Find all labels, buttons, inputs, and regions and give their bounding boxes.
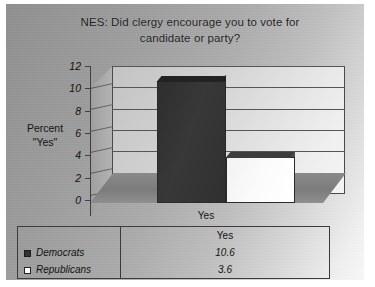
y-tick-mark-0 [85,200,90,201]
table-row[interactable]: Democrats 10.6 [18,244,329,261]
legend-label-republicans: Republicans [36,264,91,275]
legend-item-democrats[interactable]: Democrats [18,244,121,261]
table-value-democrats: 10.6 [121,244,330,261]
y-tick-mark-10 [85,88,90,89]
chart-title: NES: Did clergy encourage you to vote fo… [40,14,340,46]
bar-republicans[interactable] [226,157,295,203]
table-value-republicans: 3.6 [121,261,330,278]
y-tick-label-6: 6 [55,128,81,138]
y-tick-mark-6 [85,133,90,134]
table-header-category: Yes [121,227,330,244]
table-header-row: Yes [18,227,329,244]
y-tick-mark-2 [85,178,90,179]
plot-area [90,66,346,214]
gridline-10 [112,87,345,88]
y-tick-label-2: 2 [55,173,81,183]
table-row[interactable]: Republicans 3.6 [18,261,329,278]
gridline-12 [112,66,345,67]
y-tick-label-8: 8 [55,106,81,116]
chart-title-line-2: candidate or party? [40,30,340,46]
legend-label-democrats: Democrats [36,247,84,258]
y-tick-label-10: 10 [55,83,81,93]
y-tick-label-4: 4 [55,150,81,160]
gridline-6 [112,130,345,131]
y-tick-mark-12 [85,66,90,67]
legend-swatch-republicans-icon [24,267,31,274]
legend-swatch-democrats-icon [24,250,31,257]
bar-republicans-top [225,152,294,158]
y-axis-line [90,66,91,216]
chart-title-line-1: NES: Did clergy encourage you to vote fo… [40,14,340,30]
y-tick-label-12: 12 [55,61,81,71]
legend-item-republicans[interactable]: Republicans [18,261,121,278]
bar-democrats-top [156,76,225,82]
y-tick-mark-8 [85,111,90,112]
y-tick-label-0: 0 [55,195,81,205]
bar-democrats-face [157,81,226,203]
slide-canvas: NES: Did clergy encourage you to vote fo… [0,0,375,287]
gridline-8 [112,109,345,110]
bar-democrats[interactable] [157,81,226,203]
x-axis-category-label: Yes [156,210,256,221]
data-table: Yes Democrats 10.6 Republicans 3.6 [17,226,330,279]
y-tick-mark-4 [85,155,90,156]
gridline-4 [112,151,345,152]
bar-republicans-face [226,157,295,203]
table-header-blank [18,227,121,244]
